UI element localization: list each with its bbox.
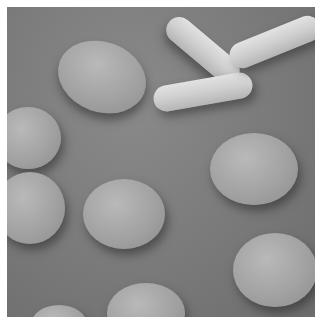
red-blood-cell — [210, 133, 298, 205]
red-blood-cell — [7, 107, 61, 169]
red-blood-cell — [31, 305, 87, 317]
red-blood-cell — [48, 29, 157, 126]
red-blood-cell — [233, 233, 315, 307]
micrograph-image — [7, 7, 315, 317]
sickle-cell — [226, 12, 315, 72]
red-blood-cell — [83, 179, 165, 249]
red-blood-cell — [7, 172, 65, 244]
red-blood-cell — [107, 283, 185, 317]
sickle-cell — [152, 71, 255, 114]
